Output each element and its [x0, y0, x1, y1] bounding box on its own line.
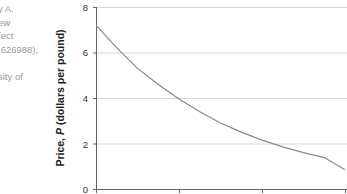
plot-area — [0, 0, 347, 194]
price-curve — [96, 25, 345, 170]
axes — [93, 7, 347, 193]
